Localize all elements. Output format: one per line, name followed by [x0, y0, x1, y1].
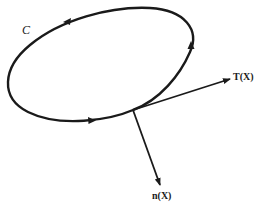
orientation-arrows: [63, 18, 195, 124]
arrow-bottom-icon: [88, 117, 96, 124]
diagram-canvas: C T(X) n(X): [0, 0, 260, 205]
normal-label: n(X): [152, 190, 171, 202]
normal-vector: [133, 110, 160, 185]
curve-c: [8, 8, 193, 121]
tangent-label: T(X): [233, 71, 254, 83]
tangent-vector: [133, 79, 230, 110]
curve-label: C: [22, 23, 31, 37]
